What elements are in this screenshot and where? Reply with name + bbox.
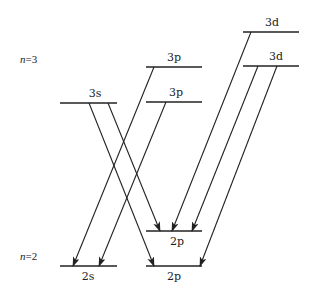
transition-3d_top-to-2p_top bbox=[172, 32, 251, 231]
level-label: 2p bbox=[167, 270, 181, 283]
shell-labels: n=3n=2 bbox=[20, 53, 38, 262]
transition-3p_bot-to-2s bbox=[99, 102, 166, 266]
level-label: 3p bbox=[169, 86, 183, 99]
shell-label-n3: n=3 bbox=[20, 53, 38, 65]
transition-3s-to-2p_top bbox=[108, 103, 160, 231]
level-2s: 2s bbox=[60, 266, 117, 283]
level-3d_bot: 3d bbox=[243, 50, 299, 66]
level-2p_bot: 2p bbox=[146, 266, 202, 283]
level-3p_top: 3p bbox=[146, 51, 202, 67]
energy-level-diagram: n=3n=2 3d3p3d3s3p2p2s2p bbox=[0, 0, 322, 300]
diagram-svg: n=3n=2 3d3p3d3s3p2p2s2p bbox=[0, 0, 322, 300]
level-label: 3p bbox=[167, 51, 181, 64]
level-label: 3d bbox=[269, 50, 283, 63]
level-3s: 3s bbox=[60, 87, 117, 103]
shell-label-n2: n=2 bbox=[20, 250, 37, 262]
level-3d_top: 3d bbox=[243, 16, 299, 32]
level-label: 3s bbox=[89, 87, 102, 100]
transition-3d_bot-to-2p_top bbox=[192, 66, 258, 231]
level-label: 3d bbox=[265, 16, 279, 29]
level-3p_bot: 3p bbox=[146, 86, 202, 102]
level-label: 2p bbox=[170, 235, 184, 248]
transition-3d_bot-to-2p_bot bbox=[200, 66, 277, 266]
level-label: 2s bbox=[82, 270, 95, 283]
energy-levels: 3d3p3d3s3p2p2s2p bbox=[60, 16, 299, 283]
transition-3s-to-2p_bot bbox=[89, 103, 154, 266]
level-2p_top: 2p bbox=[146, 231, 202, 248]
